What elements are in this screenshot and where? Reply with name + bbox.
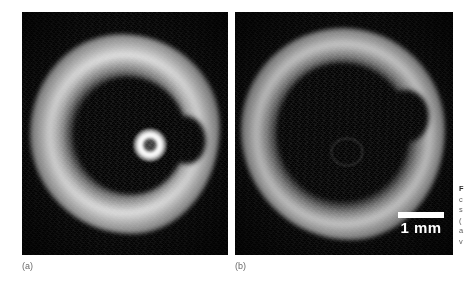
scale-bar-group: 1 mm <box>395 212 447 236</box>
caption-line-6: v <box>459 237 473 248</box>
catheter-artifact-a <box>133 128 167 162</box>
caption-line-4: ( <box>459 216 473 227</box>
panel-letter-b: (b) <box>235 261 246 272</box>
caption-line-2: c <box>459 195 473 206</box>
catheter-artifact-b <box>331 138 363 166</box>
caption-line-1: F <box>459 184 473 195</box>
figure-root: 1 mm (a) (b) F c s ( a v <box>0 0 473 292</box>
scale-bar-label: 1 mm <box>395 220 447 236</box>
panel-b-image[interactable]: 1 mm <box>235 12 453 255</box>
scale-bar <box>398 212 444 218</box>
panel-letter-a: (a) <box>22 261 33 272</box>
scan-a <box>22 12 228 255</box>
lumen-bulge-b <box>383 90 429 142</box>
caption-line-5: a <box>459 226 473 237</box>
panel-a-image[interactable] <box>22 12 228 255</box>
lumen-bulge-a <box>164 116 206 164</box>
figure-caption: F c s ( a v <box>459 184 473 248</box>
caption-line-3: s <box>459 205 473 216</box>
